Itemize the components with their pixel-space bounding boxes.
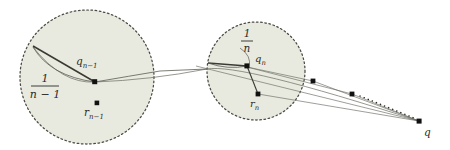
point-r-n bbox=[256, 92, 261, 97]
limit-point-q bbox=[417, 119, 422, 124]
frac-numerator-1b: 1 bbox=[244, 27, 251, 39]
frac-denominator-nminus1: n − 1 bbox=[30, 88, 60, 101]
label-q-n-minus-1-sub: n−1 bbox=[83, 62, 98, 70]
seq-dot-2 bbox=[350, 92, 355, 97]
point-q-n-minus-1 bbox=[92, 79, 97, 84]
label-r-n-sub: n bbox=[255, 104, 259, 112]
frac-numerator-1a: 1 bbox=[42, 72, 49, 85]
label-q-n-sub: n bbox=[261, 59, 265, 67]
nested-disks-diagram: qn−1 rn−1 1 n − 1 qn rn 1 n q bbox=[0, 0, 450, 150]
frac-denominator-n: n bbox=[244, 42, 251, 54]
point-r-n-minus-1 bbox=[95, 101, 100, 106]
label-limit-q: q bbox=[424, 126, 431, 138]
label-r-n-minus-1-sub: n−1 bbox=[89, 113, 104, 121]
dotted-ellipsis-path bbox=[360, 96, 414, 118]
seq-dot-1 bbox=[311, 79, 316, 84]
point-q-n bbox=[244, 63, 249, 68]
